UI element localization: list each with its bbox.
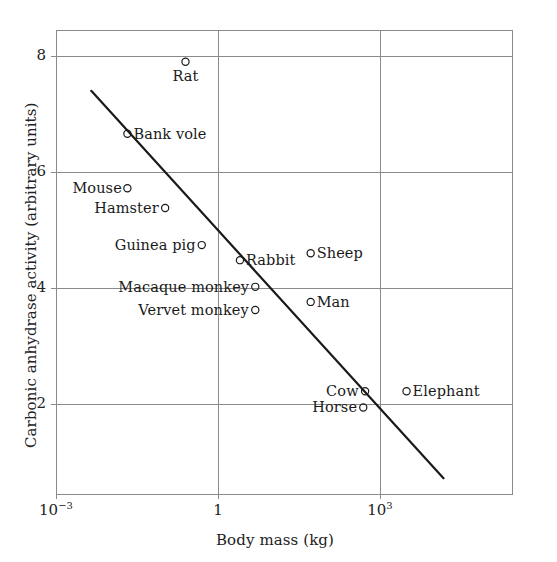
y-tick-label: 8 [0, 46, 46, 64]
carbonic-anhydrase-scatter-chart: 864210−31103 RatBank voleMouseHamsterGui… [0, 0, 557, 562]
data-point-label: Guinea pig [115, 237, 196, 253]
data-point-label: Sheep [317, 245, 363, 261]
x-tick-mantissa: 10 [367, 501, 386, 519]
data-point-label: Rabbit [246, 252, 296, 268]
data-point-label: Horse [312, 399, 357, 415]
x-tick-exponent: 3 [386, 500, 392, 511]
data-point-label: Hamster [94, 200, 159, 216]
y-axis-title: Carbonic anhydrase activity (arbitrary u… [22, 103, 40, 448]
x-axis-title: Body mass (kg) [216, 531, 334, 549]
data-point-label: Macaque monkey [118, 279, 249, 295]
data-point-label: Mouse [72, 180, 121, 196]
plot-canvas [0, 0, 557, 562]
axis-tick-marks [51, 56, 380, 499]
data-point-label: Elephant [413, 383, 480, 399]
data-point-label: Vervet monkey [138, 302, 249, 318]
x-tick-label: 103 [0, 501, 557, 519]
data-point-label: Bank vole [133, 126, 206, 142]
data-point-label: Man [317, 294, 350, 310]
data-point-markers [124, 58, 410, 411]
data-point-label: Rat [172, 68, 198, 84]
data-point-label: Cow [326, 383, 359, 399]
